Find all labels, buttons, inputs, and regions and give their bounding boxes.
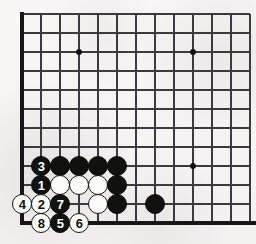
move-number-label: 1 [38,178,45,191]
move-number-label: 6 [76,216,83,229]
move-number-label: 7 [57,197,64,210]
move-number-label: 2 [38,197,45,210]
go-board-diagram: 31427856 [0,0,256,244]
star-point [76,49,82,55]
move-number-label: 3 [38,159,45,172]
move-number-label: 5 [57,216,64,229]
star-point [190,49,196,55]
move-number-label: 8 [38,216,45,229]
star-point [190,163,196,169]
move-number-label: 4 [19,197,26,210]
